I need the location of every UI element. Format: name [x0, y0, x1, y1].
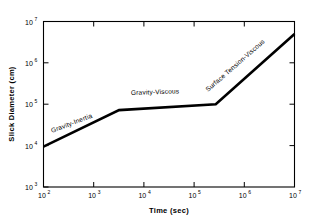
x-tick-label-0: 10: [38, 192, 46, 199]
x-tick-exp-0: 2: [48, 189, 51, 195]
x-tick-exp-4: 6: [248, 189, 251, 195]
y-tick-label-2: 10: [25, 101, 33, 108]
x-tick-exp-1: 3: [98, 189, 101, 195]
x-tick-label-1: 10: [88, 192, 96, 199]
y-tick-exp-3: 6: [35, 57, 38, 63]
y-tick-exp-4: 7: [35, 16, 38, 22]
y-tick-label-0: 10: [25, 184, 33, 191]
y-axis-right-ticks: [290, 63, 295, 146]
x-axis-title: Time (sec): [149, 206, 189, 215]
x-tick-label-3: 10: [189, 192, 197, 199]
y-tick-exp-1: 4: [35, 140, 38, 146]
annotation-surface-tension-viscous: Surface Tension-Viscous: [204, 37, 266, 92]
y-tick-label-3: 10: [25, 60, 33, 67]
y-tick-exp-2: 5: [35, 98, 38, 104]
x-tick-exp-2: 4: [148, 189, 151, 195]
x-tick-label-2: 10: [138, 192, 146, 199]
x-axis-ticks: [44, 182, 295, 187]
x-tick-label-5: 10: [289, 192, 297, 199]
x-tick-label-4: 10: [239, 192, 247, 199]
x-axis-tick-labels: 10 2 10 3 10 4 10 5 10 6 10 7: [38, 189, 302, 199]
y-tick-label-4: 10: [25, 19, 33, 26]
y-axis-title: Slick Diameter (cm): [7, 66, 16, 142]
chart-figure: 10 2 10 3 10 4 10 5 10 6 10 7 10 3 10 4 …: [0, 0, 314, 223]
y-axis-ticks: [44, 22, 49, 188]
y-tick-exp-0: 3: [35, 181, 38, 187]
slick-diameter-vs-time-chart: 10 2 10 3 10 4 10 5 10 6 10 7 10 3 10 4 …: [0, 0, 314, 223]
y-axis-tick-labels: 10 3 10 4 10 5 10 6 10 7: [25, 16, 38, 192]
y-tick-label-1: 10: [25, 143, 33, 150]
x-tick-exp-5: 7: [299, 189, 302, 195]
x-axis-top-ticks: [94, 22, 245, 27]
annotation-gravity-inertia: Gravity-Inertia: [50, 112, 94, 135]
annotation-gravity-viscous: Gravity-Viscous: [131, 87, 180, 97]
x-tick-exp-3: 5: [198, 189, 201, 195]
